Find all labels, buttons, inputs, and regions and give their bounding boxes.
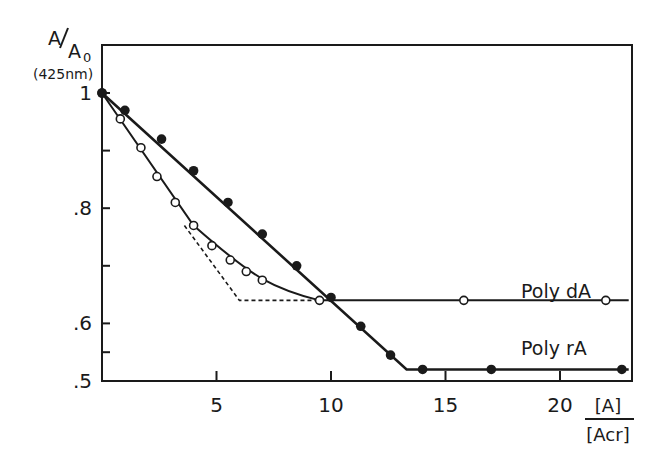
data-point-filled <box>487 365 497 375</box>
x-tick-label: 5 <box>210 393 223 417</box>
data-point-filled <box>189 166 199 176</box>
data-point-filled <box>418 365 428 375</box>
y-label-subscript: 0 <box>83 50 91 65</box>
data-point-open <box>190 221 198 229</box>
series-label: Poly rA <box>521 337 587 359</box>
data-point-open <box>602 296 610 304</box>
x-axis: 5101520 <box>210 371 573 417</box>
series-poly-ra <box>97 88 629 374</box>
y-label-slash <box>60 28 68 48</box>
data-point-open <box>171 198 179 206</box>
data-point-open <box>208 242 216 250</box>
data-point-filled <box>120 105 130 115</box>
series-label: Poly dA <box>521 280 591 302</box>
x-label-denominator: [Acr] <box>586 424 629 445</box>
y-tick-label: .5 <box>73 369 92 393</box>
y-tick-label: 1 <box>79 81 92 105</box>
data-point-filled <box>617 365 627 375</box>
data-point-open <box>460 296 468 304</box>
data-point-filled <box>97 88 107 98</box>
x-tick-label: 10 <box>318 393 343 417</box>
y-label-wavelength: (425nm) <box>33 66 93 82</box>
fit-line <box>102 93 629 300</box>
plot-frame <box>102 45 632 381</box>
plot-border <box>102 45 632 381</box>
y-tick-label: .6 <box>73 311 92 335</box>
chart: .5.6.81 5101520 Poly dAPoly rA AA0(425nm… <box>0 0 664 463</box>
series-layer <box>97 88 629 374</box>
annotations: Poly dAPoly rA <box>521 280 591 360</box>
data-point-filled <box>386 350 396 360</box>
data-point-filled <box>356 321 366 331</box>
data-point-open <box>153 173 161 181</box>
data-point-open <box>137 144 145 152</box>
data-point-filled <box>157 134 167 144</box>
data-point-open <box>116 115 124 123</box>
y-axis-label: AA0(425nm) <box>33 27 93 82</box>
data-point-open <box>258 276 266 284</box>
y-tick-label: .8 <box>73 196 92 220</box>
data-point-filled <box>258 229 268 239</box>
x-axis-label: [A][Acr] <box>585 395 634 445</box>
data-point-filled <box>326 293 336 303</box>
y-label-denominator: A <box>68 40 81 62</box>
x-tick-label: 20 <box>547 393 572 417</box>
x-tick-label: 15 <box>433 393 458 417</box>
data-point-open <box>226 256 234 264</box>
fit-line <box>102 93 629 370</box>
y-axis: .5.6.81 <box>73 81 110 393</box>
data-point-filled <box>292 261 302 271</box>
y-label-numerator: A <box>48 27 61 49</box>
data-point-open <box>316 296 324 304</box>
x-label-numerator: [A] <box>595 395 621 416</box>
data-point-open <box>242 268 250 276</box>
data-point-filled <box>223 198 233 208</box>
series-poly-da <box>98 89 629 304</box>
